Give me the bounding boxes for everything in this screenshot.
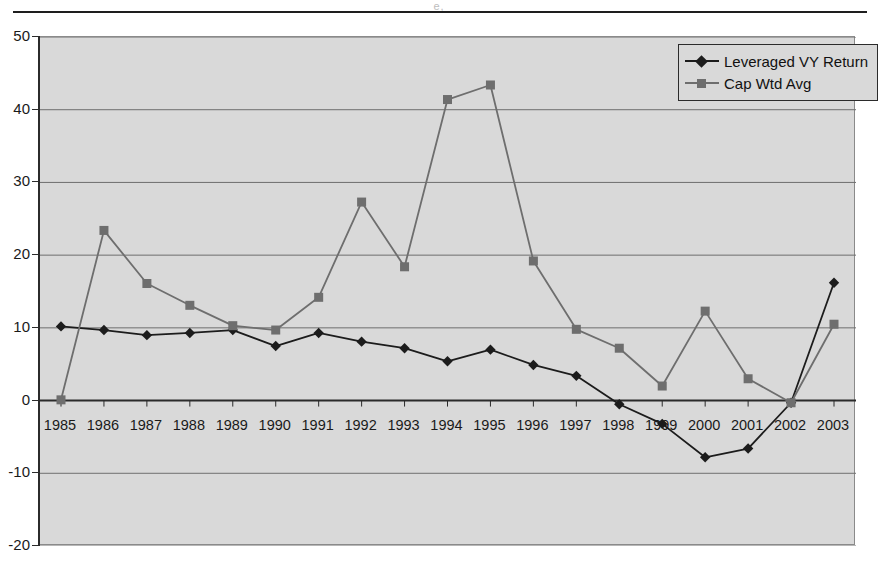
data-point-marker xyxy=(99,325,109,335)
x-tick-label: 1992 xyxy=(338,418,384,433)
data-point-marker xyxy=(314,293,323,302)
y-tick-label: 10 xyxy=(0,319,30,334)
data-point-marker xyxy=(57,395,66,404)
data-point-marker xyxy=(271,341,281,351)
data-point-marker xyxy=(529,256,538,265)
data-point-marker xyxy=(572,325,581,334)
plot-area xyxy=(38,36,855,545)
data-point-marker xyxy=(228,321,237,330)
y-tick-mark xyxy=(32,36,38,37)
x-tick-label: 1997 xyxy=(552,418,598,433)
x-tick-label: 2000 xyxy=(681,418,727,433)
y-tick-mark xyxy=(32,545,38,546)
data-point-marker xyxy=(142,279,151,288)
y-tick-mark xyxy=(32,181,38,182)
data-point-marker xyxy=(829,278,839,288)
y-tick-mark xyxy=(32,109,38,110)
data-point-marker xyxy=(787,398,796,407)
x-tick-label: 1999 xyxy=(638,418,684,433)
data-point-marker xyxy=(271,326,280,335)
data-point-marker xyxy=(486,80,495,89)
x-tick-label: 1998 xyxy=(595,418,641,433)
x-tick-label: 1986 xyxy=(80,418,126,433)
data-point-marker xyxy=(313,328,323,338)
legend-label-cap-wtd-avg: Cap Wtd Avg xyxy=(724,76,811,91)
y-tick-mark xyxy=(32,472,38,473)
x-tick-label: 2002 xyxy=(767,418,813,433)
y-tick-label: 0 xyxy=(0,392,30,407)
y-tick-label: 20 xyxy=(0,246,30,261)
legend-item: Leveraged VY Return xyxy=(685,50,868,72)
y-tick-label: -10 xyxy=(0,464,30,479)
x-tick-label: 2003 xyxy=(810,418,856,433)
data-point-marker xyxy=(701,307,710,316)
legend-marker-diamond-icon xyxy=(685,54,719,68)
y-tick-label: 40 xyxy=(0,101,30,116)
y-tick-label: 30 xyxy=(0,173,30,188)
data-point-marker xyxy=(485,344,495,354)
data-point-marker xyxy=(356,336,366,346)
x-tick-label: 1989 xyxy=(209,418,255,433)
data-point-marker xyxy=(142,330,152,340)
data-point-marker xyxy=(658,382,667,391)
chart-page: e, 50403020100-10-20 1985198619871988198… xyxy=(0,0,878,574)
y-tick-label: -20 xyxy=(0,537,30,552)
data-point-marker xyxy=(400,262,409,271)
data-point-marker xyxy=(528,360,538,370)
data-point-marker xyxy=(615,344,624,353)
data-point-marker xyxy=(399,343,409,353)
data-point-marker xyxy=(185,301,194,310)
x-tick-label: 1994 xyxy=(424,418,470,433)
y-tick-mark xyxy=(32,400,38,401)
x-tick-label: 1995 xyxy=(466,418,512,433)
x-tick-label: 1985 xyxy=(37,418,83,433)
chart-legend: Leveraged VY Return Cap Wtd Avg xyxy=(678,44,878,101)
legend-marker-square-icon xyxy=(685,76,719,90)
data-point-marker xyxy=(571,371,581,381)
x-tick-label: 1988 xyxy=(166,418,212,433)
data-point-marker xyxy=(744,374,753,383)
data-point-marker xyxy=(443,95,452,104)
x-tick-label: 1993 xyxy=(381,418,427,433)
legend-label-leveraged-vy-return: Leveraged VY Return xyxy=(724,54,868,69)
y-tick-mark xyxy=(32,254,38,255)
data-point-marker xyxy=(99,226,108,235)
data-point-marker xyxy=(185,328,195,338)
y-tick-label: 50 xyxy=(0,28,30,43)
data-point-marker xyxy=(56,321,66,331)
legend-item: Cap Wtd Avg xyxy=(685,72,868,94)
y-axis-line xyxy=(38,36,40,546)
x-tick-label: 1987 xyxy=(123,418,169,433)
x-tick-label: 1990 xyxy=(252,418,298,433)
data-point-marker xyxy=(442,356,452,366)
data-point-marker xyxy=(830,320,839,329)
data-point-marker xyxy=(357,198,366,207)
x-tick-label: 2001 xyxy=(724,418,770,433)
x-tick-label: 1996 xyxy=(509,418,555,433)
series-line-2 xyxy=(61,85,834,403)
page-header-rule xyxy=(13,11,867,13)
x-tick-label: 1991 xyxy=(295,418,341,433)
y-tick-mark xyxy=(32,327,38,328)
chart-canvas xyxy=(39,37,856,546)
